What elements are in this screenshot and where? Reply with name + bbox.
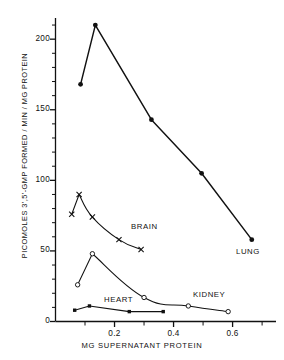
series-kidney xyxy=(73,249,234,317)
data-point xyxy=(197,168,207,178)
y-tick-label: 50 xyxy=(18,245,50,254)
data-point xyxy=(223,307,233,317)
series-label-heart: HEART xyxy=(104,295,133,304)
series-label-brain: BRAIN xyxy=(131,222,158,231)
series-label-kidney: KIDNEY xyxy=(193,290,225,299)
data-point xyxy=(70,305,80,315)
data-point xyxy=(158,307,168,317)
chart-figure: PICOMOLES 3',5'-GMP FORMED / MIN / MG PR… xyxy=(0,0,284,360)
data-point xyxy=(114,235,124,245)
data-point xyxy=(183,301,193,311)
series-lung xyxy=(76,20,257,245)
data-series-layer xyxy=(67,20,257,317)
data-point xyxy=(146,115,156,125)
data-point xyxy=(74,189,84,199)
data-point xyxy=(139,293,149,303)
y-axis-ticks xyxy=(50,25,56,321)
data-point xyxy=(90,20,100,30)
series-label-lung: LUNG xyxy=(236,247,260,256)
data-point xyxy=(84,301,94,311)
x-tick-label: 0.4 xyxy=(159,329,189,338)
x-tick-label: 0.6 xyxy=(218,329,248,338)
data-point xyxy=(136,245,146,255)
x-tick-label: 0.2 xyxy=(100,329,130,338)
y-tick-label: 200 xyxy=(18,34,50,43)
data-point xyxy=(87,212,97,222)
y-tick-label: 0 xyxy=(18,316,50,325)
data-point xyxy=(76,79,86,89)
y-tick-label: 150 xyxy=(18,104,50,113)
axis-lines xyxy=(56,18,277,322)
y-axis-title: PICOMOLES 3',5'-GMP FORMED / MIN / MG PR… xyxy=(20,31,29,281)
y-tick-label: 100 xyxy=(18,175,50,184)
data-point xyxy=(124,307,134,317)
x-axis-ticks xyxy=(85,322,262,328)
data-point xyxy=(87,249,97,259)
x-axis-title: MG SUPERNATANT PROTEIN xyxy=(0,341,284,350)
data-point xyxy=(67,209,77,219)
data-point xyxy=(247,235,257,245)
data-point xyxy=(73,280,83,290)
